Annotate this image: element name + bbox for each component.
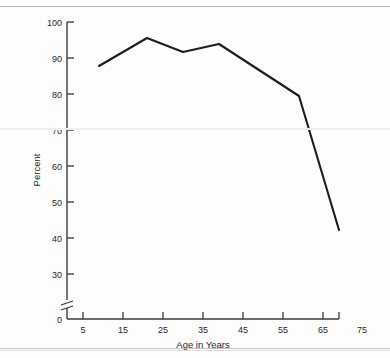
scan-rule-bottom-2 bbox=[0, 350, 390, 351]
x-tick-label-45: 45 bbox=[238, 325, 248, 335]
x-tick-label-65: 65 bbox=[318, 325, 328, 335]
y-axis-ticks bbox=[67, 22, 74, 274]
scan-rule-top bbox=[0, 6, 390, 7]
line-chart: 100 90 80 70 60 50 40 30 0 5 15 25 35 45… bbox=[0, 0, 390, 358]
y-axis-break-icon bbox=[61, 301, 73, 310]
y-tick-label-0: 0 bbox=[57, 315, 62, 325]
figure-canvas: 100 90 80 70 60 50 40 30 0 5 15 25 35 45… bbox=[0, 0, 390, 358]
y-tick-label-90: 90 bbox=[52, 54, 62, 64]
y-tick-label-60: 60 bbox=[52, 162, 62, 172]
y-axis-title: Percent bbox=[31, 153, 42, 186]
y-tick-label-30: 30 bbox=[52, 270, 62, 280]
x-tick-label-35: 35 bbox=[198, 325, 208, 335]
y-tick-label-50: 50 bbox=[52, 198, 62, 208]
x-tick-label-75: 75 bbox=[357, 325, 367, 335]
scan-band-upper-2 bbox=[0, 129, 390, 130]
y-tick-label-70: 70 bbox=[52, 126, 62, 136]
x-axis-ticks bbox=[83, 312, 339, 319]
y-tick-label-40: 40 bbox=[52, 234, 62, 244]
x-tick-label-55: 55 bbox=[278, 325, 288, 335]
y-tick-label-80: 80 bbox=[52, 90, 62, 100]
x-tick-label-15: 15 bbox=[118, 325, 128, 335]
scan-rule-bottom bbox=[0, 348, 390, 349]
data-line-percent bbox=[99, 38, 339, 230]
x-tick-label-25: 25 bbox=[158, 325, 168, 335]
y-tick-label-100: 100 bbox=[47, 18, 62, 28]
x-tick-label-5: 5 bbox=[80, 325, 85, 335]
